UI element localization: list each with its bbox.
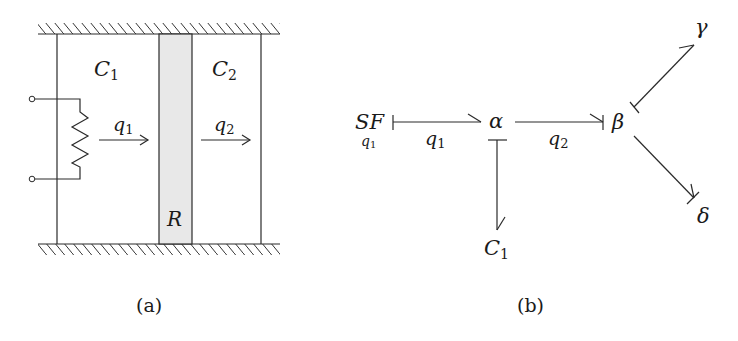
chamber-c2-label: C2 <box>212 57 237 83</box>
resistance-label: R <box>166 207 182 231</box>
node-gamma: γ <box>695 15 708 39</box>
svg-text:q2: q2 <box>548 127 568 151</box>
top-wall <box>38 23 280 34</box>
svg-text:q1: q1 <box>425 127 445 151</box>
caption-a: (a) <box>136 294 162 316</box>
flow-arrow-q2: q2 <box>201 113 250 145</box>
flow-arrow-q1: q1 <box>99 113 148 145</box>
bond-q2: q2 <box>515 114 603 151</box>
heater-resistor <box>29 96 88 182</box>
svg-text:q2: q2 <box>214 113 234 137</box>
bond-alpha-c1 <box>488 140 507 230</box>
junction-alpha: α <box>489 109 503 133</box>
panel-b: SF q1 q1 α q2 β C1 <box>355 15 710 316</box>
chamber-c1-label: C1 <box>94 57 119 83</box>
bottom-wall <box>38 244 280 255</box>
caption-b: (b) <box>517 294 544 316</box>
source-flow-sub: q1 <box>361 133 376 150</box>
bond-beta-gamma <box>630 45 694 113</box>
capacitor-c1: C1 <box>484 236 509 262</box>
junction-beta: β <box>611 110 624 134</box>
svg-text:q1: q1 <box>113 113 133 137</box>
diagram-canvas: C1 C2 q1 q2 R (a) SF q1 q1 α <box>0 0 738 341</box>
node-delta: δ <box>697 204 710 228</box>
bond-q1: q1 <box>393 114 481 151</box>
panel-a: C1 C2 q1 q2 R (a) <box>29 23 280 316</box>
bond-beta-delta <box>634 136 699 204</box>
source-flow-label: SF <box>355 110 385 134</box>
